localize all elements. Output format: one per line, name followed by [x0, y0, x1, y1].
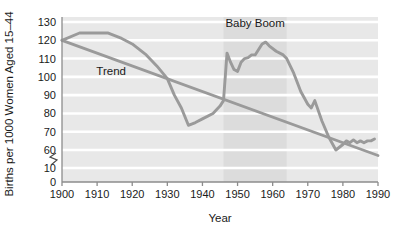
- y-axis-title: Births per 1000 Women Aged 15–44: [3, 11, 15, 197]
- shaded-band-group: [224, 17, 287, 182]
- x-tick-label: 1910: [85, 188, 109, 200]
- x-tick-label: 1960: [260, 188, 284, 200]
- x-tick-label: 1950: [225, 188, 249, 200]
- y-tick-label: 70: [44, 126, 56, 138]
- y-tick-label: 100: [38, 71, 56, 83]
- baby-boom-band: [224, 17, 287, 182]
- x-tick-label: 1970: [296, 188, 320, 200]
- x-tick-label: 1990: [366, 188, 390, 200]
- x-tick-label: 1900: [50, 188, 74, 200]
- y-tick-label: 10: [44, 162, 56, 174]
- birth-rate-chart: 1900191019201930194019501960197019801990…: [0, 0, 402, 236]
- x-tick-label: 1980: [331, 188, 355, 200]
- y-tick-label: 130: [38, 16, 56, 28]
- y-tick-label: 90: [44, 89, 56, 101]
- chart-canvas: 1900191019201930194019501960197019801990…: [0, 0, 402, 236]
- x-tick-label: 1930: [155, 188, 179, 200]
- y-tick-label-group: 01060708090100110120130: [38, 16, 56, 188]
- y-tick-label: 110: [38, 53, 56, 65]
- x-axis-title: Year: [208, 212, 231, 224]
- x-tick-label: 1920: [120, 188, 144, 200]
- y-tick-label: 80: [44, 107, 56, 119]
- plot-background: [62, 17, 378, 182]
- baby-boom-label: Baby Boom: [225, 17, 284, 29]
- x-tick-label: 1940: [190, 188, 214, 200]
- y-tick-label: 0: [50, 176, 56, 188]
- x-tick-label-group: 1900191019201930194019501960197019801990: [50, 188, 390, 200]
- y-tick-label: 120: [38, 34, 56, 46]
- trend-label: Trend: [96, 65, 126, 77]
- plot-background-group: [62, 17, 378, 182]
